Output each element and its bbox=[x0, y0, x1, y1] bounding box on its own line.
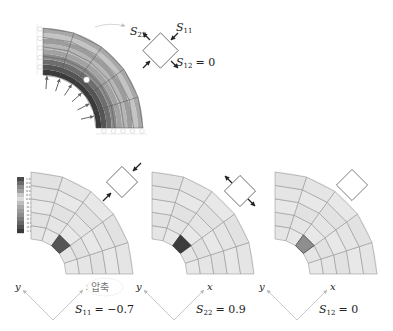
roller-support-icon bbox=[130, 129, 135, 134]
pressure-arrow-icon bbox=[81, 116, 94, 119]
x-axis-label: x bbox=[207, 281, 213, 292]
roller-support-icon bbox=[111, 129, 116, 134]
pressure-arrow-icon bbox=[56, 79, 60, 91]
roller-support-icon bbox=[38, 27, 43, 32]
stress-equation: S22= 0.9 bbox=[196, 303, 246, 317]
compression-annotation: 압축 bbox=[91, 281, 109, 293]
pressure-arrow-icon bbox=[64, 85, 71, 96]
arrow-s11-in2-icon bbox=[143, 61, 150, 68]
diagram-canvas: S22 S11 S12= 0 1.00.80.60.40.20.0-0.1-0.… bbox=[0, 0, 393, 331]
roller-support-icon bbox=[102, 129, 107, 134]
tension-arrow-icon bbox=[225, 176, 232, 183]
panel-s12: yxS12= 0 bbox=[258, 172, 377, 320]
y-axis-label: y bbox=[135, 281, 142, 292]
y-axis-arrow-icon bbox=[144, 290, 174, 320]
stress-equation: S12= 0 bbox=[319, 303, 358, 317]
stress-element-s11 bbox=[103, 163, 141, 201]
y-axis-arrow-icon bbox=[23, 290, 53, 320]
pressure-arrow-icon bbox=[72, 93, 82, 102]
roller-support-icon bbox=[38, 46, 43, 51]
label-s11: S11 bbox=[176, 21, 192, 35]
label-s22: S22 bbox=[130, 25, 146, 39]
compression-arrow-icon bbox=[133, 163, 141, 171]
y-axis-arrow-icon bbox=[267, 290, 297, 320]
pressure-arrow-icon bbox=[78, 104, 90, 110]
stress-element-s12 bbox=[336, 169, 367, 200]
roller-support-icon bbox=[38, 36, 43, 41]
y-axis-label: y bbox=[258, 281, 265, 292]
roller-support-icon bbox=[121, 129, 126, 134]
x-axis-label: x bbox=[330, 281, 336, 292]
label-s12: S12= 0 bbox=[176, 56, 215, 70]
compression-arrow-icon bbox=[103, 193, 111, 201]
rotation-arrow-icon bbox=[95, 24, 125, 27]
color-legend: 1.00.80.60.40.20.0-0.1-0.2-0.3-0.4-0.5-0… bbox=[17, 177, 32, 233]
stress-element-top bbox=[143, 33, 178, 68]
stress-element-s22 bbox=[224, 175, 255, 206]
pressure-arrow-icon bbox=[46, 76, 47, 89]
arrow-s11-in-icon bbox=[171, 33, 178, 40]
roller-support-icon bbox=[38, 55, 43, 60]
roller-support-icon bbox=[38, 65, 43, 70]
panel-s11: yxS11= −0.7압축 bbox=[14, 172, 134, 320]
tension-arrow-icon bbox=[248, 199, 255, 206]
y-axis-label: y bbox=[14, 281, 21, 292]
contour-plot-top bbox=[37, 24, 147, 134]
probe-point-marker bbox=[84, 77, 90, 83]
roller-support-icon bbox=[140, 129, 145, 134]
stress-equation: S11= −0.7 bbox=[75, 303, 134, 317]
